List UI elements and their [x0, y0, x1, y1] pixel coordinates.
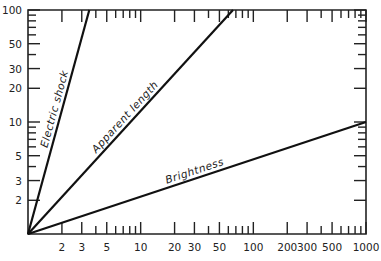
plot-border [28, 10, 366, 234]
y-tick-label: 30 [9, 63, 22, 75]
x-tick-label: 3 [78, 241, 85, 253]
x-tick-label: 500 [322, 241, 342, 253]
x-tick-label: 100 [243, 241, 263, 253]
y-tick-label: 20 [9, 82, 22, 94]
x-tick-label: 10 [134, 241, 147, 253]
x-tick-label: 30 [188, 241, 201, 253]
y-tick-label: 100 [2, 4, 22, 16]
log-log-chart: 235102030501002003005001000 235102030501… [0, 0, 381, 261]
series-label: Brightness [164, 155, 226, 186]
x-tick-label: 20 [168, 241, 181, 253]
x-tick-label: 2 [59, 241, 66, 253]
x-tick-label: 1000 [353, 241, 380, 253]
series-lines [28, 10, 366, 234]
series-labels: Electric shockApparent lengthBrightness [38, 68, 226, 185]
y-tick-label: 5 [15, 150, 22, 162]
series-label: Apparent length [88, 78, 160, 155]
plot-frame [28, 10, 366, 234]
x-tick-label: 300 [297, 241, 317, 253]
y-tick-label: 3 [15, 175, 22, 187]
x-tick-label: 50 [213, 241, 226, 253]
x-tick-label: 5 [103, 241, 110, 253]
x-tick-label: 200 [277, 241, 297, 253]
y-tick-label: 50 [9, 38, 22, 50]
y-tick-label: 2 [15, 194, 22, 206]
y-tick-label: 10 [9, 116, 22, 128]
